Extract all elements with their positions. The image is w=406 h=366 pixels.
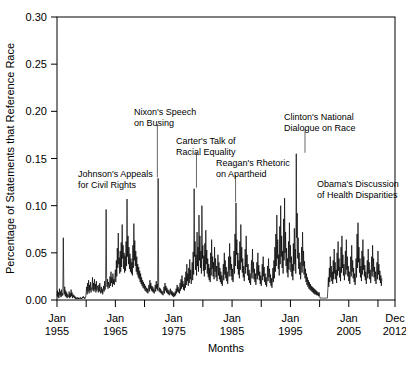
annotation-label-obama-line2: of Health Disparities	[317, 190, 398, 200]
y-tick-label: 0.25	[26, 58, 47, 70]
annotation-label-clinton: Clinton's National	[284, 112, 354, 122]
annotation-label-nixon-line2: on Busing	[134, 118, 174, 128]
x-tick-label-year: 1965	[103, 325, 127, 337]
x-tick-label-month: Dec	[385, 312, 405, 324]
x-tick-label-month: Jan	[340, 312, 358, 324]
annotation-label-obama: Obama's Discussion	[317, 179, 399, 189]
annotation-label-carter-line2: Racial Equality	[176, 147, 236, 157]
annotation-label-johnson-line2: for Civil Rights	[78, 180, 137, 190]
x-tick-label-year: 2012	[383, 325, 406, 337]
annotation-label-reagan: Reagan's Rhetoric	[216, 158, 290, 168]
annotation-label-nixon: Nixon's Speech	[134, 107, 196, 117]
y-axis-title: Percentage of Statements that Reference …	[4, 43, 16, 274]
y-tick-label: 0.05	[26, 247, 47, 259]
race-statements-timeseries-chart: 0.000.050.100.150.200.250.30 Jan1955Jan1…	[0, 0, 406, 366]
x-tick-label-month: Jan	[106, 312, 124, 324]
y-tick-label: 0.10	[26, 200, 47, 212]
y-tick-label: 0.15	[26, 153, 47, 165]
y-tick-label: 0.00	[26, 294, 47, 306]
x-tick-label-year: 2005	[337, 325, 361, 337]
x-tick-label-year: 1985	[220, 325, 244, 337]
x-tick-label-year: 1955	[45, 325, 69, 337]
annotation-label-carter: Carter's Talk of	[176, 136, 236, 146]
annotation-label-johnson: Johnson's Appeals	[78, 169, 153, 179]
x-tick-label-month: Jan	[223, 312, 241, 324]
y-tick-label: 0.30	[26, 11, 47, 23]
annotation-label-reagan-line2: on Apartheid	[216, 169, 267, 179]
x-tick-label-year: 1975	[161, 325, 185, 337]
chart-root: 0.000.050.100.150.200.250.30 Jan1955Jan1…	[0, 0, 406, 366]
x-tick-label-month: Jan	[165, 312, 183, 324]
x-axis-title: Months	[208, 342, 245, 354]
y-tick-label: 0.20	[26, 105, 47, 117]
annotation-label-clinton-line2: Dialogue on Race	[284, 123, 356, 133]
x-tick-label-month: Jan	[48, 312, 66, 324]
x-tick-label-year: 1995	[278, 325, 302, 337]
x-tick-label-month: Jan	[282, 312, 300, 324]
